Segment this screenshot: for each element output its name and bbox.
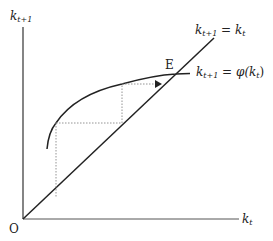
x-axis-label-sub: t xyxy=(249,218,252,227)
origin-label: O xyxy=(9,223,19,235)
diagonal-label-rhs-sub: t xyxy=(242,29,245,38)
arrow-head-icon xyxy=(155,80,162,88)
phi-label-close: ) xyxy=(260,65,265,79)
phi-curve xyxy=(47,74,190,150)
y-axis-label: kt+1 xyxy=(10,10,32,24)
diagonal-label-eq: = xyxy=(217,23,235,37)
phi-label: kt+1 = φ(kt) xyxy=(196,66,264,80)
phi-label-lhs-sub: t+1 xyxy=(203,71,218,80)
equilibrium-label: E xyxy=(165,59,174,71)
x-axis-label: kt xyxy=(242,213,253,227)
y-axis-label-sub: t+1 xyxy=(17,15,32,24)
phi-label-eq: = xyxy=(218,65,236,79)
phi-label-fn: φ( xyxy=(236,65,249,79)
diagonal-label-lhs-sub: t+1 xyxy=(202,29,217,38)
diagonal-label: kt+1 = kt xyxy=(195,24,245,38)
